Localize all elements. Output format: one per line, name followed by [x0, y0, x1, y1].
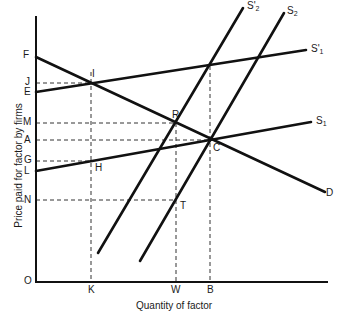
curve-label-S1-prime: S'1	[311, 44, 324, 55]
demand-curve-D	[36, 57, 325, 192]
curve-label-S2-prime: S'2	[247, 1, 260, 12]
x-label-B: B	[207, 285, 214, 295]
point-label-I: I	[92, 69, 95, 79]
curve-label-S1: S1	[316, 116, 327, 127]
curve-label-S1-sub: 1	[323, 120, 327, 127]
point-label-H: H	[95, 163, 102, 173]
supply-curve-S2-prime	[98, 8, 243, 253]
y-label-M: M	[23, 117, 31, 127]
y-label-N: N	[24, 195, 31, 205]
point-label-T: T	[180, 201, 186, 211]
y-label-G: G	[24, 155, 32, 165]
x-axis-title: Quantity of factor	[136, 300, 212, 311]
x-label-W: W	[171, 285, 180, 295]
curve-label-S2-prime-sub: 2	[256, 5, 260, 12]
y-label-A: A	[24, 135, 31, 145]
curve-label-S2-prime-main: S'	[247, 0, 256, 11]
y-label-F: F	[23, 50, 29, 60]
y-label-L: L	[24, 166, 30, 176]
origin-label-O: O	[24, 276, 32, 286]
curve-label-S2-sub: 2	[294, 10, 298, 17]
y-label-E: E	[24, 87, 31, 97]
diagram-canvas	[0, 0, 338, 319]
supply-curve-S1	[36, 122, 311, 171]
curve-label-S2: S2	[287, 6, 298, 17]
curve-label-S1-main: S	[316, 115, 323, 126]
axes	[35, 16, 328, 283]
curve-label-S1-prime-sub: 1	[320, 48, 324, 55]
supply-curve-S2	[140, 13, 284, 261]
economics-diagram: F J E M A G L N O K W B I R C H T D S'2 …	[0, 0, 338, 319]
curve-label-S2-main: S	[287, 5, 294, 16]
curves	[36, 8, 325, 261]
point-label-C: C	[213, 143, 220, 153]
point-label-R: R	[172, 110, 179, 120]
x-label-K: K	[88, 285, 95, 295]
curve-label-S1-prime-main: S'	[311, 43, 320, 54]
y-axis-title: Price paid for factor by firms	[13, 86, 24, 246]
supply-curve-S1-prime	[36, 50, 306, 92]
curve-label-D: D	[326, 188, 333, 198]
